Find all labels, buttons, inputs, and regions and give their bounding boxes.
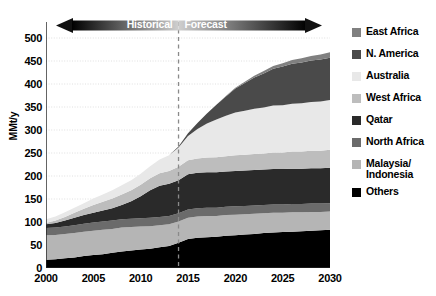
y-tick-label: 450: [14, 56, 42, 67]
chart-root: MMt/y 050100150200250300350400450500 His…: [0, 0, 436, 296]
legend-item[interactable]: North Africa: [352, 136, 436, 147]
legend-item[interactable]: Qatar: [352, 114, 436, 125]
era-arrow: [56, 18, 322, 33]
x-axis-tick-labels: 2000200520102015202020252030: [46, 272, 332, 290]
legend-item[interactable]: Malaysia/ Indonesia: [352, 158, 436, 180]
y-axis-tick-labels: 050100150200250300350400450500: [8, 16, 42, 268]
y-tick-label: 100: [14, 217, 42, 228]
legend-swatch-icon: [352, 72, 361, 81]
legend-swatch-icon: [352, 94, 361, 103]
y-tick-label: 50: [14, 240, 42, 251]
y-tick-label: 200: [14, 171, 42, 182]
y-tick-label: 300: [14, 125, 42, 136]
legend-item-label: East Africa: [366, 26, 418, 37]
y-tick-label: 250: [14, 148, 42, 159]
x-tick-label: 2030: [318, 272, 341, 284]
legend-item-label: Others: [366, 186, 399, 197]
x-tick-label: 2015: [176, 272, 199, 284]
legend-swatch-icon: [352, 50, 361, 59]
legend-item-label: N. America: [366, 48, 418, 59]
legend-item-label: Australia: [366, 70, 409, 81]
legend-item-label: Malaysia/ Indonesia: [366, 158, 413, 180]
legend-swatch-icon: [352, 188, 361, 197]
y-tick-label: 400: [14, 79, 42, 90]
x-tick-label: 2025: [271, 272, 294, 284]
legend-swatch-icon: [352, 138, 361, 147]
x-tick-label: 2005: [82, 272, 105, 284]
legend-item[interactable]: West Africa: [352, 92, 436, 103]
x-tick-label: 2020: [224, 272, 247, 284]
legend-item[interactable]: N. America: [352, 48, 436, 59]
legend-item-label: West Africa: [366, 92, 421, 103]
legend-item-label: North Africa: [366, 136, 424, 147]
x-tick-label: 2010: [129, 272, 152, 284]
y-tick-label: 500: [14, 33, 42, 44]
x-tick-label: 2000: [34, 272, 57, 284]
chart-legend: East AfricaN. AmericaAustraliaWest Afric…: [352, 26, 436, 208]
y-tick-label: 150: [14, 194, 42, 205]
plot-area: Historical Forecast: [46, 16, 332, 268]
stacked-area-chart: [46, 16, 332, 268]
legend-item[interactable]: Australia: [352, 70, 436, 81]
area-series-group: [46, 52, 330, 268]
legend-swatch-icon: [352, 116, 361, 125]
legend-swatch-icon: [352, 160, 361, 169]
legend-swatch-icon: [352, 28, 361, 37]
legend-item[interactable]: East Africa: [352, 26, 436, 37]
y-tick-label: 350: [14, 102, 42, 113]
legend-item[interactable]: Others: [352, 186, 436, 197]
legend-item-label: Qatar: [366, 114, 392, 125]
